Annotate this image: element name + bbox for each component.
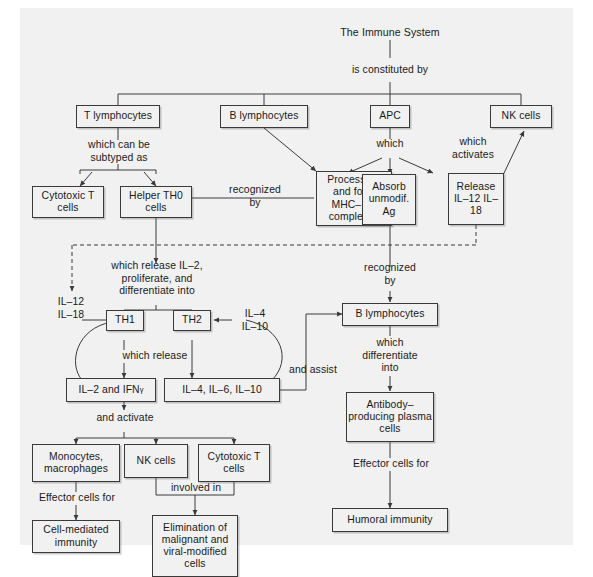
box-elimination-malignant-viral[interactable]: Elimination of malignant and viral-modif… (152, 515, 238, 577)
diagram-canvas: The Immune System is constituted by whic… (20, 8, 573, 545)
connector-effector-cells-for-right: Effector cells for (342, 458, 440, 471)
il2-ifn-text: IL–2 and IFN (78, 384, 139, 396)
connector-and-assist: and assist (280, 364, 346, 377)
connector-which-differentiate-into: which differentiate into (350, 337, 430, 375)
label-il12-il18-left: IL–12 IL–18 (40, 296, 102, 321)
box-b-lymphocytes[interactable]: B lymphocytes (220, 105, 308, 128)
connector-effector-cells-for-left: Effector cells for (28, 492, 126, 505)
box-apc[interactable]: APC (370, 105, 410, 128)
box-absorb-unmodif-ag[interactable]: Absorb unmodif. Ag (362, 174, 416, 225)
gamma-subscript: γ (140, 386, 144, 395)
box-release-il12-il18[interactable]: Release IL–12 IL–18 (448, 173, 504, 225)
connector-is-constituted-by: is constituted by (330, 64, 450, 77)
box-antibody-producing-plasma-cells[interactable]: Antibody– producing plasma cells (346, 392, 434, 442)
connector-which-activates: which activates (444, 136, 502, 161)
connector-which-can-be-subtyped-as: which can be subtyped as (72, 139, 166, 164)
box-monocytes-macrophages[interactable]: Monocytes, macrophages (32, 444, 120, 482)
connector-and-activate: and activate (78, 412, 172, 425)
box-nk-cells[interactable]: NK cells (490, 105, 552, 128)
box-th2[interactable]: TH2 (173, 310, 211, 331)
box-il2-and-ifn-gamma[interactable]: IL–2 and IFNγ (66, 378, 156, 402)
box-humoral-immunity[interactable]: Humoral immunity (332, 508, 448, 532)
box-helper-th0-cells[interactable]: Helper TH0 cells (120, 186, 192, 218)
box-nk-cells-2[interactable]: NK cells (124, 444, 188, 478)
box-th1[interactable]: TH1 (106, 310, 144, 331)
connector-involved-in: involved in (158, 482, 234, 495)
connector-recognized-by-left: recognized by (206, 184, 304, 209)
label-il4-il10-right: IL–4 IL–10 (229, 308, 281, 333)
box-cell-mediated-immunity[interactable]: Cell-mediated immunity (32, 520, 120, 553)
connector-which-release-proliferate: which release IL–2, proliferate, and dif… (82, 260, 232, 298)
diagram-page: The Immune System is constituted by whic… (20, 8, 573, 545)
diagram-title: The Immune System (320, 26, 460, 39)
box-b-lymphocytes-2[interactable]: B lymphocytes (342, 303, 438, 326)
connector-which-release: which release (104, 350, 206, 363)
box-cytotoxic-t-cells-2[interactable]: Cytotoxic T cells (198, 444, 270, 482)
connector-which: which (366, 138, 414, 151)
box-t-lymphocytes[interactable]: T lymphocytes (76, 105, 160, 128)
connector-recognized-by-right: recognized by (350, 262, 430, 287)
box-il4-il6-il10[interactable]: IL–4, IL–6, IL–10 (164, 378, 280, 402)
box-cytotoxic-t-cells[interactable]: Cytotoxic T cells (32, 186, 104, 218)
